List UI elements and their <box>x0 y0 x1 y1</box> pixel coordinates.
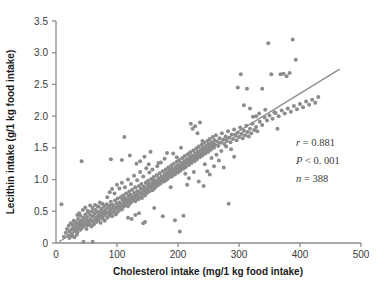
chart-canvas: 00.51.01.52.02.53.03.5 0100200300400500 … <box>0 0 380 284</box>
data-point <box>241 136 245 140</box>
data-point <box>113 192 117 196</box>
data-point <box>295 107 299 111</box>
data-point <box>100 202 104 206</box>
data-point <box>120 158 124 162</box>
data-point <box>141 174 145 178</box>
data-point <box>85 227 89 231</box>
data-point <box>228 140 232 144</box>
data-point <box>88 204 92 208</box>
data-point <box>271 117 275 121</box>
data-point <box>59 202 63 206</box>
y-axis-tick-label: 1.0 <box>34 174 48 185</box>
data-point <box>298 102 302 106</box>
data-point <box>266 41 270 45</box>
data-point <box>198 120 202 124</box>
data-point <box>142 155 146 159</box>
data-point <box>235 138 239 142</box>
y-axis-tick-label: 2.0 <box>34 111 48 122</box>
data-point <box>291 37 295 41</box>
data-point <box>239 72 243 76</box>
data-point <box>257 112 261 116</box>
data-point <box>205 169 209 173</box>
data-point <box>231 137 235 141</box>
data-point <box>217 136 221 140</box>
data-point <box>137 211 141 215</box>
data-point <box>115 183 119 187</box>
data-point <box>122 135 126 139</box>
data-point <box>149 150 153 154</box>
x-axis-tick-label: 100 <box>109 249 126 260</box>
data-point <box>220 131 224 135</box>
data-point <box>181 214 185 218</box>
data-point <box>269 72 273 76</box>
data-point <box>224 145 228 149</box>
data-point <box>128 153 132 157</box>
data-point <box>310 98 314 102</box>
data-point <box>265 119 269 123</box>
data-point <box>75 233 79 237</box>
data-point <box>150 167 154 171</box>
data-point <box>285 74 289 78</box>
data-point <box>105 195 109 199</box>
data-point <box>286 107 290 111</box>
data-points-layer <box>59 37 320 243</box>
data-point <box>126 178 130 182</box>
data-point <box>138 170 142 174</box>
data-point <box>99 221 103 225</box>
data-point <box>147 162 151 166</box>
data-point <box>179 146 183 150</box>
data-point <box>189 122 193 126</box>
annotation-p-value: P < 0. 001 <box>295 155 340 166</box>
data-point <box>226 129 230 133</box>
data-point <box>268 114 272 118</box>
data-point <box>109 157 113 161</box>
data-point <box>277 114 281 118</box>
data-point <box>183 172 187 176</box>
data-point <box>260 123 264 127</box>
y-axis-title: Lecithin intake (g/1 kg food intake) <box>5 50 16 214</box>
data-point <box>130 217 134 221</box>
data-point <box>210 156 214 160</box>
x-axis-tick-label: 200 <box>170 249 187 260</box>
data-point <box>197 179 201 183</box>
data-point <box>255 129 259 133</box>
data-point <box>301 105 305 109</box>
data-point <box>242 103 246 107</box>
y-axis-tick-label: 3.5 <box>34 16 48 27</box>
data-point <box>243 133 247 137</box>
data-point <box>123 185 127 189</box>
data-point <box>248 127 252 131</box>
data-point <box>147 171 151 175</box>
data-point <box>135 178 139 182</box>
x-axis-tick-labels: 0100200300400500 <box>53 249 370 260</box>
data-point <box>313 101 317 105</box>
data-point <box>247 134 251 138</box>
data-point <box>227 202 231 206</box>
data-point <box>187 176 191 180</box>
y-axis-tick-label: 1.5 <box>34 142 48 153</box>
data-point <box>292 104 296 108</box>
data-point <box>167 166 171 170</box>
data-point <box>169 185 173 189</box>
scatter-plot-figure: 00.51.01.52.02.53.03.5 0100200300400500 … <box>0 0 380 284</box>
data-point <box>193 124 197 128</box>
data-point <box>245 87 249 91</box>
data-point <box>108 190 112 194</box>
data-point <box>196 131 200 135</box>
data-point <box>294 58 298 62</box>
data-point <box>263 108 267 112</box>
data-point <box>155 164 159 168</box>
data-point <box>215 140 219 144</box>
data-point <box>120 181 124 185</box>
data-point <box>110 214 114 218</box>
data-point <box>222 166 226 170</box>
data-point <box>232 127 236 131</box>
data-point <box>117 186 121 190</box>
data-point <box>232 155 236 159</box>
data-point <box>175 155 179 159</box>
data-point <box>133 213 137 217</box>
data-point <box>110 187 114 191</box>
data-point <box>129 182 133 186</box>
data-point <box>229 147 233 151</box>
data-point <box>143 220 147 224</box>
